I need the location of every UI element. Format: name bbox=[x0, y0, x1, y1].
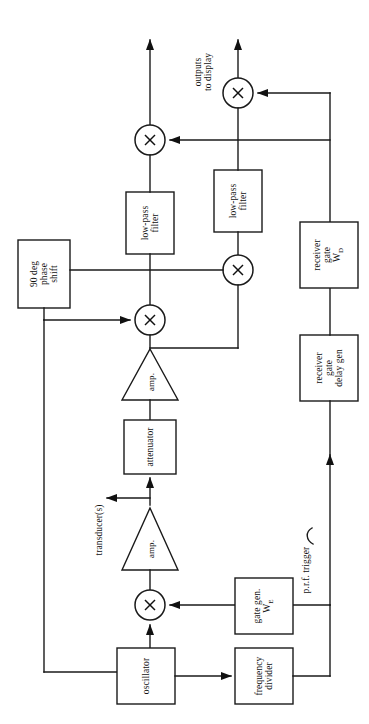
frequency-divider-label: frequency divider bbox=[254, 657, 274, 696]
receiver-gate-line2: gate bbox=[322, 247, 332, 263]
lpf-upper-line2: filter bbox=[150, 213, 160, 232]
receiver-gate-label: receiver gate WD bbox=[312, 239, 345, 270]
low-pass-filter-lower-label: low-pass filter bbox=[228, 184, 248, 219]
phase-shift-line3: shift bbox=[49, 265, 59, 282]
phase-shift-line1: 90 deg bbox=[29, 261, 39, 287]
amp-receive-text: amp. bbox=[146, 373, 156, 391]
outputs-to-display-line2: to display bbox=[203, 53, 213, 91]
delay-gen-line2: gate bbox=[324, 360, 334, 376]
amp-transmit-text: amp. bbox=[146, 540, 156, 558]
transducers-label: transducer(s) bbox=[94, 505, 104, 556]
transducers-text: transducer(s) bbox=[94, 505, 104, 556]
prf-trigger-text: p.r.f. trigger bbox=[301, 547, 311, 594]
phase-shift-line2: phase bbox=[39, 263, 49, 285]
lpf-lower-line1: low-pass bbox=[228, 184, 238, 219]
frequency-divider-line2: divider bbox=[264, 662, 274, 690]
lpf-lower-line2: filter bbox=[238, 191, 248, 210]
lpf-upper-line1: low-pass bbox=[140, 206, 150, 241]
low-pass-filter-upper-label: low-pass filter bbox=[140, 206, 160, 241]
gate-generator-label: gate gen. WE bbox=[252, 588, 275, 623]
receiver-gate-delay-label: receiver gate delay gen bbox=[314, 349, 344, 387]
gate-gen-line1: gate gen. bbox=[252, 588, 262, 623]
outputs-to-display-line1: outputs bbox=[193, 58, 203, 87]
diagram-canvas: outputs to display low-pass filter low-p… bbox=[0, 0, 369, 724]
phase-shift-label: 90 deg phase shift bbox=[29, 261, 59, 287]
delay-gen-line3: delay gen bbox=[334, 349, 344, 387]
prf-trigger-label: p.r.f. trigger bbox=[301, 547, 311, 594]
gate-gen-line2: W bbox=[262, 604, 272, 613]
outputs-to-display-label: outputs to display bbox=[193, 53, 213, 91]
oscillator-label: oscillator bbox=[141, 658, 151, 694]
receiver-gate-line3: W bbox=[332, 253, 342, 262]
oscillator-text: oscillator bbox=[141, 658, 151, 694]
amplifier-transmit-label: amp. bbox=[147, 540, 157, 558]
attenuator-label: attenuator bbox=[145, 428, 155, 467]
receiver-gate-line1: receiver bbox=[312, 239, 322, 270]
attenuator-text: attenuator bbox=[145, 428, 155, 467]
amplifier-receive-label: amp. bbox=[147, 373, 157, 391]
receiver-gate-subscript: D bbox=[337, 248, 345, 253]
frequency-divider-line1: frequency bbox=[254, 657, 264, 696]
prf-trigger-leader bbox=[307, 528, 313, 544]
gate-gen-subscript: E bbox=[267, 599, 275, 603]
delay-gen-line1: receiver bbox=[314, 352, 324, 383]
